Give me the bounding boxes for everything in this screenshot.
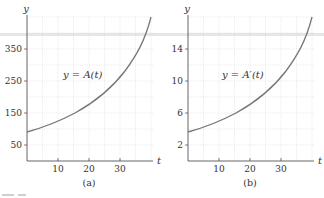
- x-tick-label: 10: [213, 164, 225, 174]
- y-tick-label: 10: [172, 76, 184, 86]
- figure: 50 150 250 350 10 20 30 y t y = A(t) (a): [0, 0, 324, 198]
- x-tick-label: 30: [275, 164, 287, 174]
- y-axis-label-b: y: [183, 3, 190, 14]
- panel-caption-b: (b): [243, 177, 257, 188]
- y-tick-label: 14: [172, 44, 184, 54]
- scan-band: [0, 33, 324, 36]
- x-axis-label-a: t: [157, 155, 162, 166]
- y-tick-label: 250: [5, 76, 22, 86]
- grid-b: [188, 17, 314, 161]
- y-tick-label: 2: [177, 140, 183, 150]
- curve-label-a: y = A(t): [62, 69, 103, 80]
- x-tick-label: 30: [114, 164, 126, 174]
- x-tick-label: 20: [83, 164, 95, 174]
- x-axis-label-b: t: [318, 155, 323, 166]
- cutoff-caption: [2, 194, 26, 196]
- panel-b: 2 6 10 14 10 20 30 y t y = A′(t) (b): [172, 3, 323, 188]
- y-tick-label: 350: [5, 44, 22, 54]
- panel-a: 50 150 250 350 10 20 30 y t y = A(t) (a): [5, 3, 162, 188]
- x-tick-label: 20: [244, 164, 256, 174]
- curve-label-b: y = A′(t): [221, 69, 264, 80]
- y-tick-label: 50: [11, 140, 23, 150]
- y-tick-label: 150: [5, 108, 22, 118]
- y-axis-label-a: y: [22, 3, 29, 14]
- panel-caption-a: (a): [82, 177, 95, 188]
- y-tick-label: 6: [177, 108, 183, 118]
- x-tick-label: 10: [52, 164, 64, 174]
- grid-a: [27, 17, 153, 161]
